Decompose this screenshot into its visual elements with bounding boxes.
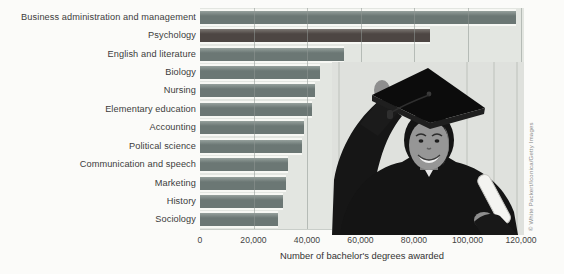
x-tick-label: 40,000: [294, 235, 320, 245]
bar-psychology: [200, 29, 430, 42]
photo-credit: © White Packert/Iconica/Getty Images: [528, 122, 534, 231]
category-label: Political science: [0, 140, 196, 153]
x-tick-label: 60,000: [347, 235, 373, 245]
category-label: Sociology: [0, 213, 196, 226]
category-label: Psychology: [0, 29, 196, 42]
x-axis-ticks: 020,00040,00060,00080,000100,000120,000: [200, 235, 540, 247]
x-tick-label: 100,000: [452, 235, 483, 245]
gridline-40000: [307, 8, 308, 229]
x-axis-title: Number of bachelor's degrees awarded: [200, 250, 524, 261]
category-label: Elementary education: [0, 103, 196, 116]
bar-communication-and-speech: [200, 158, 288, 171]
category-labels: Business administration and managementPs…: [0, 8, 196, 229]
bar-sociology: [200, 213, 278, 226]
bar-english-and-literature: [200, 48, 344, 61]
bar-elementary-education: [200, 103, 312, 116]
bar-biology: [200, 66, 320, 79]
category-label: Communication and speech: [0, 158, 196, 171]
category-label: Nursing: [0, 84, 196, 97]
gridline-20000: [254, 8, 255, 229]
x-tick-label: 80,000: [401, 235, 427, 245]
x-tick-label: 20,000: [240, 235, 266, 245]
bar-accounting: [200, 121, 304, 134]
bar-nursing: [200, 84, 315, 97]
bar-history: [200, 195, 283, 208]
category-label: Accounting: [0, 121, 196, 134]
x-tick-label: 120,000: [505, 235, 536, 245]
graduate-photo: [332, 62, 524, 235]
x-tick-label: 0: [198, 235, 203, 245]
category-label: Marketing: [0, 177, 196, 190]
category-label: Biology: [0, 66, 196, 79]
bar-political-science: [200, 140, 302, 153]
category-label: Business administration and management: [0, 11, 196, 24]
bar-marketing: [200, 177, 286, 190]
category-label: History: [0, 195, 196, 208]
degrees-bar-chart-figure: Business administration and managementPs…: [0, 0, 564, 274]
graduate-illustration: [332, 62, 524, 235]
category-label: English and literature: [0, 48, 196, 61]
